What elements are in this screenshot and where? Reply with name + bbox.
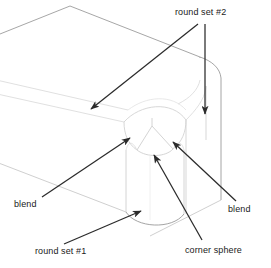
diagram-canvas: round set #2 blend blend round set #1 co… <box>0 0 271 268</box>
label-blend-left: blend <box>14 200 37 209</box>
leader-lines <box>42 24 236 244</box>
front-left-face <box>0 88 126 212</box>
round-set-2-right-tangents <box>178 80 206 120</box>
leader-blend-right <box>173 142 236 201</box>
label-round-set-2: round set #2 <box>175 8 226 17</box>
round-set-2-left-tangents <box>0 74 128 122</box>
right-face <box>150 78 221 236</box>
leader-round-set-1 <box>64 211 141 244</box>
leader-round-set-2-left <box>91 24 198 109</box>
leader-blend-left <box>42 138 130 197</box>
label-blend-right: blend <box>228 205 251 214</box>
corner-sphere-patch <box>137 149 173 156</box>
geometry-drawing <box>0 0 271 268</box>
round-set-2-cap <box>124 99 186 122</box>
label-round-set-1: round set #1 <box>35 247 86 256</box>
leader-corner-sphere <box>154 155 202 240</box>
label-corner-sphere: corner sphere <box>185 246 242 255</box>
